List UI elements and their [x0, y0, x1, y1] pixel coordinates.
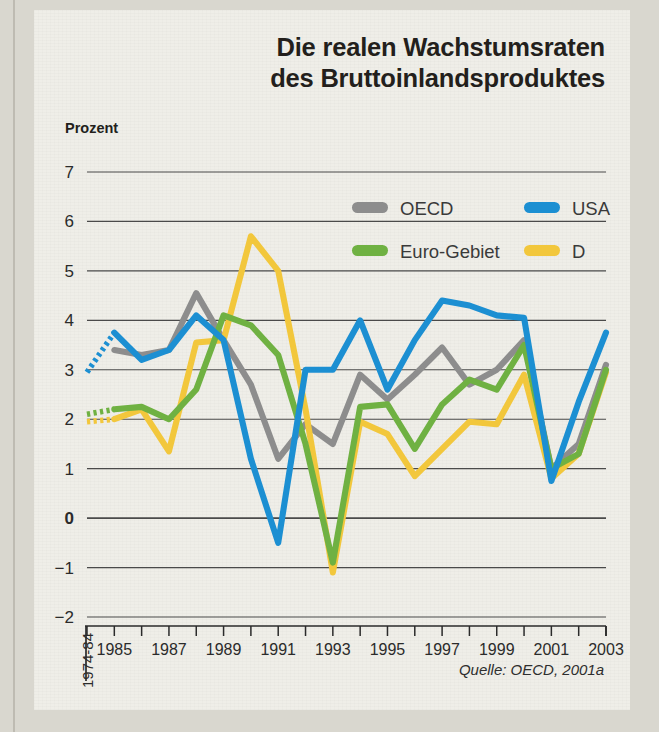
- y-tick-label--2: −2: [55, 608, 74, 627]
- legend-item-oecd: OECD: [352, 198, 453, 219]
- legend-label-euro: Euro-Gebiet: [400, 241, 500, 262]
- legend-swatch-oecd: [352, 202, 388, 213]
- y-tick-label-4: 4: [65, 311, 74, 330]
- y-tick-label-3: 3: [65, 361, 74, 380]
- source-note: Quelle: OECD, 2001a: [459, 661, 604, 678]
- chart-figure: Die realen Wachstumsraten des Bruttoinla…: [34, 10, 630, 710]
- x-tick-label-2003: 2003: [588, 641, 624, 658]
- series-dashed-lead-in: [87, 409, 114, 414]
- y-tick-label-2: 2: [65, 410, 74, 429]
- legend-group: OECDUSAEuro-GebietD: [352, 198, 611, 262]
- legend-item-germany: D: [524, 241, 585, 262]
- y-tick-label-7: 7: [65, 163, 74, 182]
- x-tick-label-1995: 1995: [370, 641, 406, 658]
- x-tick-label-1987: 1987: [151, 641, 187, 658]
- plot-area: 76543210−1−2 1974-8419851987198919911993…: [34, 10, 630, 710]
- legend-item-usa: USA: [524, 198, 611, 219]
- legend-label-usa: USA: [572, 198, 611, 219]
- x-tick-label-1989: 1989: [206, 641, 242, 658]
- x-tick-label-1997: 1997: [424, 641, 460, 658]
- x-tick-label-1999: 1999: [479, 641, 515, 658]
- y-tick-label-6: 6: [65, 212, 74, 231]
- series-dashed-lead-in: [87, 333, 114, 373]
- y-tick-label-5: 5: [65, 262, 74, 281]
- legend-label-oecd: OECD: [400, 198, 453, 219]
- x-tick-label-1991: 1991: [260, 641, 296, 658]
- legend-swatch-euro: [352, 245, 388, 256]
- legend-label-germany: D: [572, 241, 585, 262]
- x-tick-label-1985: 1985: [97, 641, 133, 658]
- legend-swatch-germany: [524, 245, 560, 256]
- y-tick-label--1: −1: [55, 559, 74, 578]
- data-series-group: [87, 236, 606, 572]
- y-tick-labels-group: 76543210−1−2: [55, 163, 74, 627]
- y-tick-label-1: 1: [65, 460, 74, 479]
- y-tick-label-0: 0: [65, 509, 74, 528]
- x-tick-label-1993: 1993: [315, 641, 351, 658]
- legend-swatch-usa: [524, 202, 560, 213]
- legend-item-euro: Euro-Gebiet: [352, 241, 500, 262]
- x-tick-label-1974-84: 1974-84: [79, 633, 96, 688]
- page-gutter-line: [13, 0, 15, 732]
- x-tick-label-2001: 2001: [534, 641, 570, 658]
- chart-svg: 76543210−1−2 1974-8419851987198919911993…: [34, 10, 630, 710]
